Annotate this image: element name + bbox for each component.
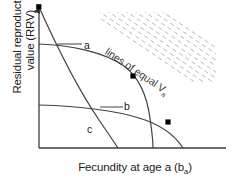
curve-label-a: a bbox=[84, 39, 90, 51]
figure-container: Residual reproductive value (RRV) Fecund… bbox=[0, 0, 233, 183]
curve-label-b: b bbox=[124, 100, 130, 112]
curve-a bbox=[39, 44, 153, 148]
x-axis-label: Fecundity at age a (ba) bbox=[40, 161, 230, 176]
x-axis-label-close: ) bbox=[188, 161, 192, 173]
curve-b bbox=[39, 105, 183, 148]
x-axis-label-text: Fecundity at age a (b bbox=[78, 161, 184, 173]
y-axis-label: Residual reproductive value (RRV) bbox=[8, 0, 40, 100]
isocline-8 bbox=[151, 10, 233, 83]
marker-b-optimum bbox=[165, 119, 170, 124]
y-axis-label-text: Residual reproductive value (RRV) bbox=[11, 0, 37, 94]
isocline-3 bbox=[106, 10, 214, 83]
curve-c bbox=[39, 7, 118, 148]
curve-label-c: c bbox=[87, 123, 92, 135]
